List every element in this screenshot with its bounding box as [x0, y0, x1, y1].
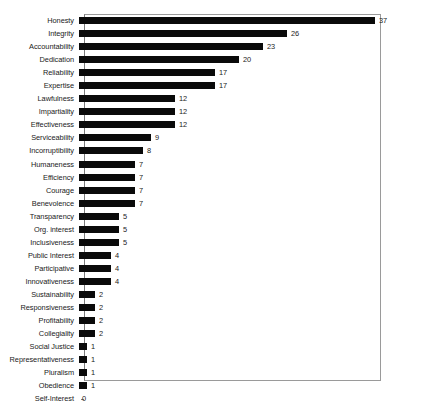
value-label: 20: [243, 55, 251, 64]
value-label: 17: [219, 81, 227, 90]
value-label: 7: [139, 186, 143, 195]
bar: [79, 69, 215, 76]
bar-row: Representativeness1: [0, 353, 423, 366]
bar: [79, 56, 239, 63]
value-label: 5: [123, 225, 127, 234]
value-label: 7: [139, 160, 143, 169]
bar: [79, 43, 263, 50]
bar-row: Benevolence7: [0, 197, 423, 210]
bar-zone: 12: [79, 92, 423, 105]
bar: [79, 17, 375, 24]
value-label: 17: [219, 68, 227, 77]
value-label: 23: [267, 42, 275, 51]
bar-zone: 5: [79, 236, 423, 249]
bar-row: Social Justice1: [0, 340, 423, 353]
category-label: Impartiality: [0, 107, 79, 116]
value-label: 7: [139, 199, 143, 208]
bar: [79, 30, 287, 37]
bar: [79, 252, 111, 259]
bar-zone: 7: [79, 158, 423, 171]
bar-row: Lawfulness12: [0, 92, 423, 105]
bar-row: Transparency5: [0, 210, 423, 223]
bar: [79, 174, 135, 181]
bar: [79, 343, 87, 350]
bar-row: Public Interest4: [0, 249, 423, 262]
bar-row: Integrity26: [0, 27, 423, 40]
category-label: Reliability: [0, 68, 79, 77]
bar: [79, 317, 95, 324]
value-label: 0: [82, 394, 86, 402]
category-label: Self-Interest: [0, 394, 79, 402]
bar: [79, 187, 135, 194]
bar-zone: 7: [79, 171, 423, 184]
bar-row: Courage7: [0, 184, 423, 197]
bar-zone: 26: [79, 27, 423, 40]
value-label: 2: [99, 290, 103, 299]
category-label: Incorruptibility: [0, 146, 79, 155]
value-label: 2: [99, 329, 103, 338]
value-label: 9: [155, 133, 159, 142]
category-label: Accountability: [0, 42, 79, 51]
bar-row: Honesty37: [0, 14, 423, 27]
bar-zone: 5: [79, 223, 423, 236]
category-label: Integrity: [0, 29, 79, 38]
category-label: Responsiveness: [0, 303, 79, 312]
bar-zone: 2: [79, 327, 423, 340]
bar: [79, 356, 87, 363]
bar-zone: 1: [79, 379, 423, 392]
bar-zone: 1: [79, 340, 423, 353]
bar: [79, 95, 175, 102]
bar-row: Collegiality2: [0, 327, 423, 340]
value-label: 4: [115, 264, 119, 273]
category-label: Expertise: [0, 81, 79, 90]
bar: [79, 304, 95, 311]
category-label: Sustainability: [0, 290, 79, 299]
category-label: Honesty: [0, 16, 79, 25]
bar: [79, 265, 111, 272]
value-label: 4: [115, 251, 119, 260]
bar-zone: 4: [79, 275, 423, 288]
bar-zone: 17: [79, 79, 423, 92]
bar: [79, 82, 215, 89]
category-label: Transparency: [0, 212, 79, 221]
category-label: Collegiality: [0, 329, 79, 338]
category-label: Org. interest: [0, 225, 79, 234]
category-label: Inclusiveness: [0, 238, 79, 247]
category-label: Lawfulness: [0, 94, 79, 103]
value-label: 2: [99, 316, 103, 325]
bar-row: Inclusiveness5: [0, 236, 423, 249]
bar-zone: 12: [79, 105, 423, 118]
category-label: Innovativeness: [0, 277, 79, 286]
value-label: 1: [91, 381, 95, 390]
value-label: 5: [123, 212, 127, 221]
value-label: 7: [139, 173, 143, 182]
category-label: Obedience: [0, 381, 79, 390]
bar: [79, 213, 119, 220]
bar: [79, 369, 87, 376]
bar-zone: 5: [79, 210, 423, 223]
bar-row: Participative4: [0, 262, 423, 275]
bar-zone: 1: [79, 353, 423, 366]
bar-zone: 8: [79, 144, 423, 157]
bar-zone: 17: [79, 66, 423, 79]
bar-zone: 4: [79, 249, 423, 262]
value-label: 26: [291, 29, 299, 38]
bar-zone: 37: [79, 14, 423, 27]
value-label: 1: [91, 355, 95, 364]
bar-row: Org. interest5: [0, 223, 423, 236]
bar-zone: 9: [79, 131, 423, 144]
bar-row: Humaneness7: [0, 158, 423, 171]
value-label: 12: [179, 120, 187, 129]
bar-row: Efficiency7: [0, 171, 423, 184]
category-label: Representativeness: [0, 355, 79, 364]
bar-row: Dedication20: [0, 53, 423, 66]
category-label: Dedication: [0, 55, 79, 64]
category-label: Humaneness: [0, 160, 79, 169]
bar-zone: 2: [79, 288, 423, 301]
bar: [79, 278, 111, 285]
value-label: 2: [99, 303, 103, 312]
bar: [79, 330, 95, 337]
bar-row: Pluralism1: [0, 366, 423, 379]
bar-zone: 20: [79, 53, 423, 66]
bar-row: Accountability23: [0, 40, 423, 53]
